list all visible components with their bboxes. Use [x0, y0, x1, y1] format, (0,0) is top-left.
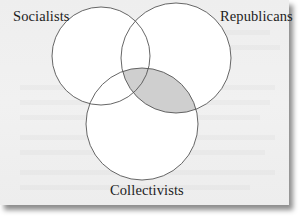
socialists-label: Socialists	[13, 8, 70, 25]
venn-diagram	[0, 0, 289, 205]
venn-diagram-card: Socialists Republicans Collectivists	[0, 0, 289, 205]
collectivists-label: Collectivists	[110, 182, 184, 199]
republicans-label: Republicans	[220, 8, 293, 25]
